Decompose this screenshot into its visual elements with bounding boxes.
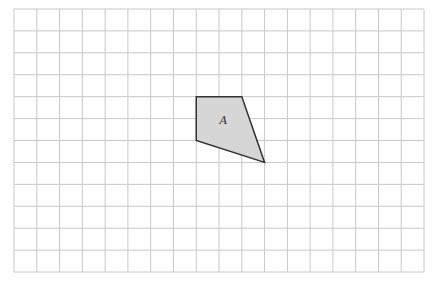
shape-label: A (219, 114, 228, 127)
grid-diagram: A (0, 0, 436, 283)
shape-a (196, 97, 264, 163)
